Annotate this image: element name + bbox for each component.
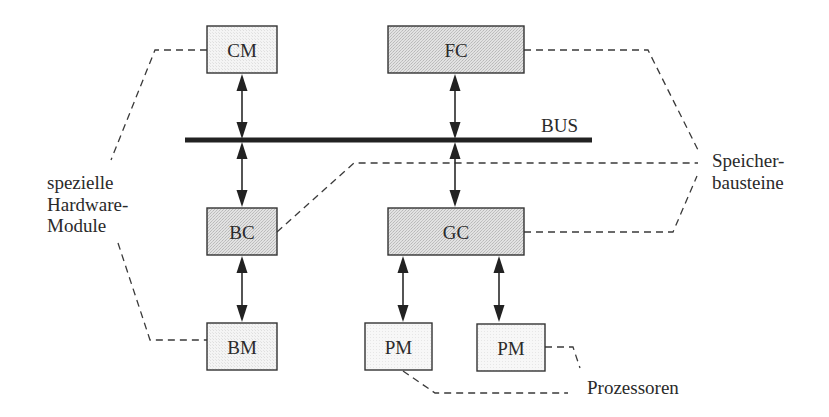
arrowhead-up-icon [398,256,409,273]
bidirectional-arrows [237,74,505,322]
module-box-cm: CM [207,26,277,73]
spezielle-hardware-module-connector [111,50,207,160]
module-box-bc: BC [207,208,277,255]
speicherbausteine-label: Speicher-bausteine [712,150,784,193]
arrowhead-down-icon [450,122,461,139]
arrowhead-down-icon [494,305,505,322]
arrowhead-up-icon [450,142,461,159]
svg-text:Hardware-: Hardware- [47,194,128,215]
arrow-fc-bus [450,74,461,139]
module-label: CM [227,40,257,61]
system-bus: BUS [185,115,592,140]
arrow-bus-bc [237,142,248,207]
module-label: BC [229,222,254,243]
speicherbausteine-connector [524,176,697,232]
hardware-architecture-diagram: BUS CMFCBCGCBMPMPM spezielleHardware-Mod… [0,0,829,417]
module-box-pm2: PM [477,324,545,371]
svg-text:spezielle: spezielle [47,172,113,193]
svg-text:Prozessoren: Prozessoren [587,377,679,398]
arrowhead-up-icon [450,74,461,91]
module-label: FC [444,40,467,61]
module-label: PM [497,338,525,359]
module-box-pm1: PM [365,323,432,370]
arrow-gc-pm1 [398,256,409,322]
arrowhead-up-icon [237,142,248,159]
arrow-gc-pm2 [494,256,505,322]
svg-text:Speicher-: Speicher- [712,150,784,171]
arrow-cm-bus [237,74,248,139]
arrowhead-up-icon [237,74,248,91]
prozessoren-connector [403,371,568,393]
module-box-fc: FC [388,26,524,73]
arrowhead-down-icon [237,190,248,207]
module-label: PM [385,337,413,358]
arrowhead-down-icon [450,190,461,207]
prozessoren-label: Prozessoren [587,377,679,398]
arrowhead-up-icon [237,256,248,273]
arrow-bus-gc [450,142,461,207]
module-boxes: CMFCBCGCBMPMPM [207,26,545,371]
module-label: GC [443,222,469,243]
svg-text:Module: Module [47,215,106,236]
spezielle-hardware-module-connector [118,243,207,340]
arrow-bc-bm [237,256,248,322]
arrowhead-down-icon [237,305,248,322]
bus-label: BUS [541,115,578,136]
arrowhead-down-icon [237,122,248,139]
module-box-gc: GC [388,208,524,255]
module-label: BM [227,337,257,358]
arrowhead-up-icon [494,256,505,273]
spezielle-hardware-module-label: spezielleHardware-Module [47,172,128,236]
svg-text:bausteine: bausteine [712,172,784,193]
prozessoren-connector [545,347,580,368]
arrowhead-down-icon [398,305,409,322]
module-box-bm: BM [207,323,277,370]
